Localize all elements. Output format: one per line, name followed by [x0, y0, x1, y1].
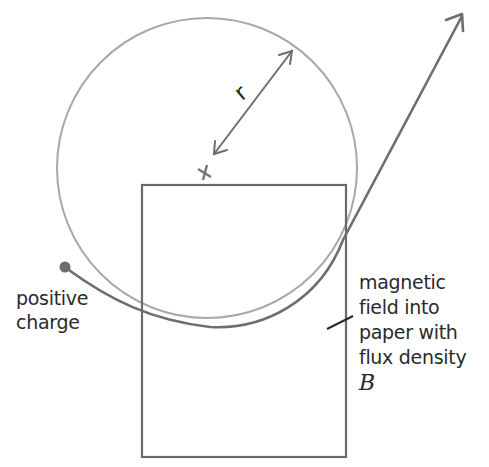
charge-label-line-1: positive [16, 286, 88, 310]
circle-center-cross-icon [198, 165, 211, 180]
diagram-graphics [0, 0, 489, 467]
field-label-line-1: magnetic [359, 270, 466, 295]
radius-arrow-icon [214, 51, 292, 154]
field-label-pointer [327, 316, 353, 329]
positive-charge-dot [60, 262, 71, 273]
field-label-line-4: flux density [359, 345, 466, 370]
field-label: magnetic field into paper with flux dens… [359, 270, 466, 395]
charge-label: positive charge [16, 286, 88, 334]
field-label-line-3: paper with [359, 320, 466, 345]
diagram-canvas: r positive charge magnetic field into pa… [0, 0, 489, 467]
charge-label-line-2: charge [16, 310, 88, 334]
field-label-line-2: field into [359, 295, 466, 320]
flux-density-symbol: B [359, 370, 466, 395]
